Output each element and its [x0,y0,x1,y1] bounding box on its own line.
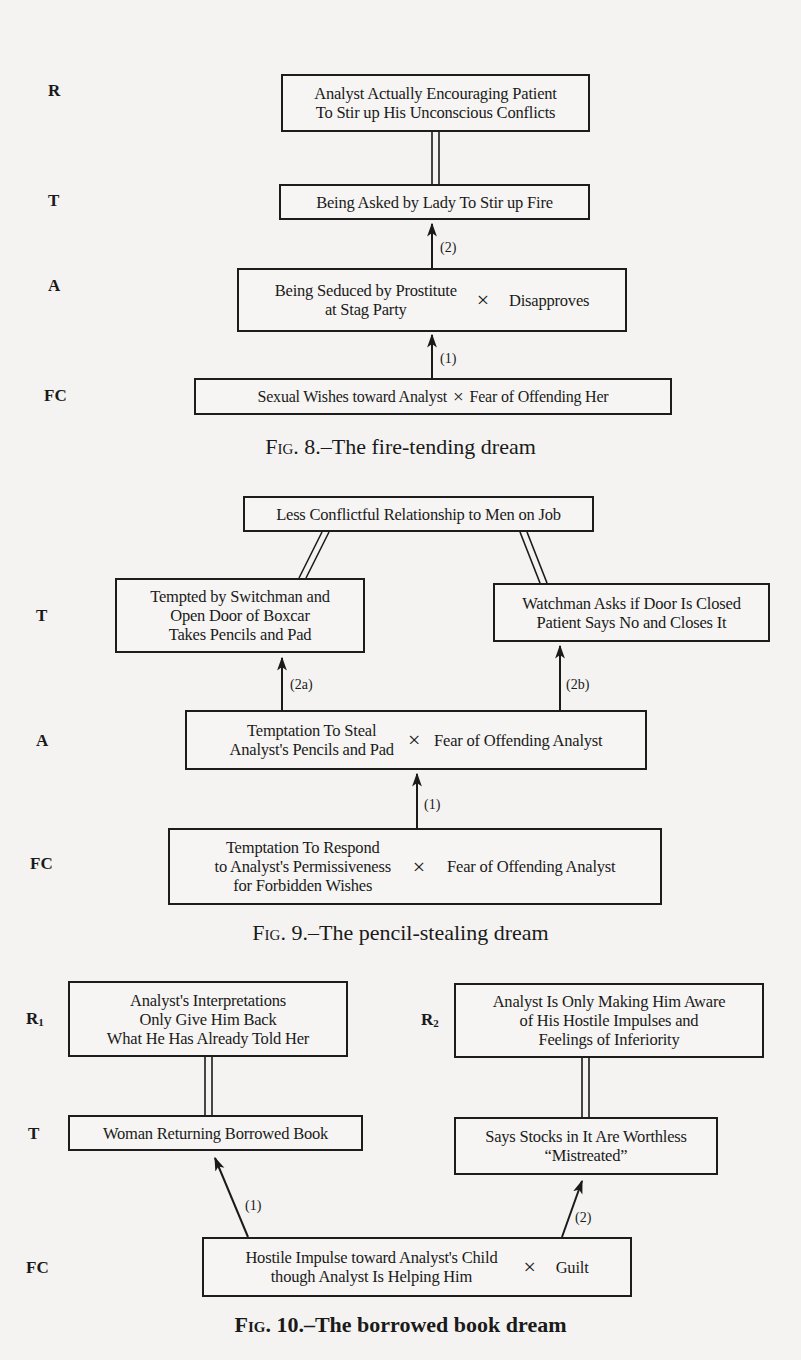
box-r: Analyst Actually Encouraging Patient To … [281,74,590,132]
caption-prefix: Fig. 8. [265,434,321,459]
box-r-line: To Stir up His Unconscious Conflicts [316,103,556,122]
box-fc-left-line: to Analyst's Permissiveness [215,857,391,876]
box-fc: Hostile Impulse toward Analyst's Child t… [202,1237,632,1297]
level-r1-main: R [26,1009,38,1028]
arrow-label-1: (1) [245,1198,261,1214]
level-label-a: A [36,731,48,751]
conflict-times-icon: × [413,856,425,878]
arrow-label-2: (2) [575,1210,591,1226]
box-r1-line: Only Give Him Back [139,1010,276,1029]
box-top-text: Less Conflictful Relationship to Men on … [276,505,561,524]
conflict-times-icon: × [408,729,420,751]
level-label-t: T [28,1124,39,1144]
level-label-fc: FC [30,854,53,874]
level-r2-main: R [421,1010,433,1029]
box-a-left-line: Temptation To Steal [247,721,376,740]
figure-caption: Fig. 8.–The fire-tending dream [0,434,801,460]
caption-title: –The pencil-stealing dream [308,920,549,945]
box-a-left-line: Being Seduced by Prostitute [275,281,457,300]
level-label-fc: FC [26,1258,49,1278]
box-fc-left-line: Temptation To Respond [226,838,380,857]
box-r2-line: of His Hostile Impulses and [520,1011,699,1030]
box-r1: Analyst's Interpretations Only Give Him … [68,981,348,1057]
box-t-right-line: Watchman Asks if Door Is Closed [522,594,740,613]
arrow-label-2b: (2b) [566,677,589,693]
box-t1: Woman Returning Borrowed Book [68,1115,363,1151]
level-label-t: T [48,191,59,211]
box-t-left-line: Open Door of Boxcar [170,606,310,625]
box-r-line: Analyst Actually Encouraging Patient [314,84,557,103]
box-r1-line: What He Has Already Told Her [107,1029,309,1048]
figure-caption: Fig. 10.–The borrowed book dream [0,1312,801,1338]
box-t-right-line: Patient Says No and Closes It [537,613,727,632]
caption-prefix: Fig. 9. [252,920,308,945]
box-a-left-line: at Stag Party [325,300,407,319]
conflict-times-icon: × [477,289,489,311]
caption-title: –The borrowed book dream [304,1312,567,1337]
arrow-label-2a: (2a) [290,677,313,693]
box-t2-line: Says Stocks in It Are Worthless [485,1127,687,1146]
caption-prefix: Fig. 10. [234,1312,303,1337]
box-fc-left-line: though Analyst Is Helping Him [271,1267,472,1286]
level-label-r: R [48,81,60,101]
box-fc: Temptation To Respond to Analyst's Permi… [168,828,662,905]
box-fc-right: Fear of Offending Analyst [447,857,615,876]
box-t-left-line: Tempted by Switchman and [150,587,330,606]
box-a-right: Disapproves [509,291,589,310]
box-fc-left: Sexual Wishes toward Analyst [258,387,447,406]
box-a-right: Fear of Offending Analyst [434,731,602,750]
box-fc-left-line: for Forbidden Wishes [233,876,372,895]
arrow-label-2: (2) [440,240,456,256]
box-a-left-line: Analyst's Pencils and Pad [230,740,394,759]
level-label-a: A [48,276,60,296]
level-label-t: T [36,606,47,626]
level-r2-sub: 2 [433,1017,439,1029]
box-t-right: Watchman Asks if Door Is Closed Patient … [493,583,770,642]
conflict-times-icon: × [453,387,464,406]
arrow-label-1: (1) [424,797,440,813]
arrow-label-1: (1) [440,351,456,367]
box-t-left: Tempted by Switchman and Open Door of Bo… [115,578,365,653]
box-t2-line: “Mistreated” [545,1146,628,1165]
caption-title: –The fire-tending dream [321,434,536,459]
level-r1-sub: 1 [38,1016,44,1028]
box-t-text: Being Asked by Lady To Stir up Fire [316,193,553,212]
level-label-r1: R1 [26,1009,44,1029]
box-fc: Sexual Wishes toward Analyst × Fear of O… [194,378,672,415]
level-label-r2: R2 [421,1010,439,1030]
box-fc-left-line: Hostile Impulse toward Analyst's Child [245,1248,497,1267]
box-top: Less Conflictful Relationship to Men on … [243,496,594,532]
box-t1-text: Woman Returning Borrowed Book [103,1124,328,1143]
box-r1-line: Analyst's Interpretations [130,991,286,1010]
box-r2-line: Analyst Is Only Making Him Aware [493,992,726,1011]
box-t2: Says Stocks in It Are Worthless “Mistrea… [454,1117,718,1175]
box-fc-right: Fear of Offending Her [469,387,608,406]
box-fc-right: Guilt [556,1258,589,1277]
box-r2: Analyst Is Only Making Him Aware of His … [454,983,764,1058]
box-t-left-line: Takes Pencils and Pad [169,625,312,644]
box-a: Temptation To Steal Analyst's Pencils an… [185,710,647,770]
box-r2-line: Feelings of Inferiority [538,1030,679,1049]
figure-caption: Fig. 9.–The pencil-stealing dream [0,920,801,946]
box-a: Being Seduced by Prostitute at Stag Part… [237,268,627,332]
conflict-times-icon: × [523,1256,535,1278]
box-t: Being Asked by Lady To Stir up Fire [279,184,590,220]
level-label-fc: FC [44,386,67,406]
